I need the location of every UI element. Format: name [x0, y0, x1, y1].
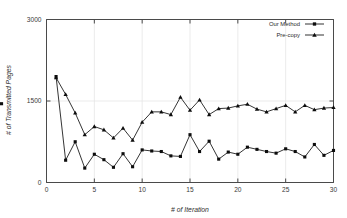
- data-point-marker: [0, 102, 3, 105]
- legend-label: Pre-copy: [276, 32, 300, 38]
- data-point-marker: [150, 149, 153, 152]
- data-point-marker: [93, 153, 96, 156]
- data-point-marker: [188, 133, 191, 136]
- data-point-marker: [294, 150, 297, 153]
- legend-marker-sample: [313, 22, 316, 25]
- data-point-marker: [198, 150, 201, 153]
- x-tick-label: 0: [45, 186, 49, 193]
- x-tick-label: 5: [92, 186, 96, 193]
- data-point-marker: [255, 148, 258, 151]
- data-point-marker: [313, 143, 316, 146]
- legend-label: Our Method: [269, 21, 300, 27]
- y-tick-label: 1500: [27, 97, 42, 104]
- x-tick-label: 20: [234, 186, 242, 193]
- chart-figure: 015003000 051015202530 # of Iteration # …: [0, 0, 347, 218]
- data-point-marker: [217, 158, 220, 161]
- data-point-marker: [160, 150, 163, 153]
- data-point-marker: [121, 152, 124, 155]
- data-point-marker: [322, 154, 325, 157]
- x-tick-label: 25: [282, 186, 290, 193]
- data-point-marker: [236, 153, 239, 156]
- data-point-marker: [112, 166, 115, 169]
- x-tick-label: 15: [186, 186, 194, 193]
- data-point-marker: [227, 151, 230, 154]
- data-point-marker: [303, 155, 306, 158]
- data-point-marker: [169, 154, 172, 157]
- data-point-marker: [74, 140, 77, 143]
- y-tick-label: 3000: [27, 16, 42, 23]
- data-point-marker: [131, 165, 134, 168]
- data-point-marker: [332, 149, 335, 152]
- data-point-marker: [265, 150, 268, 153]
- x-tick-label: 10: [138, 186, 146, 193]
- data-point-marker: [208, 140, 211, 143]
- data-point-marker: [179, 155, 182, 158]
- y-tick-label: 0: [38, 179, 42, 186]
- data-point-marker: [64, 159, 67, 162]
- data-point-marker: [141, 148, 144, 151]
- x-axis-title: # of Iteration: [171, 206, 209, 213]
- y-axis-title: # of Transmitted Pages: [5, 65, 13, 135]
- data-point-marker: [275, 152, 278, 155]
- data-point-marker: [102, 158, 105, 161]
- line-chart: 015003000 051015202530 # of Iteration # …: [0, 0, 347, 218]
- data-point-marker: [83, 167, 86, 170]
- data-point-marker: [246, 146, 249, 149]
- data-point-marker: [284, 147, 287, 150]
- x-tick-label: 30: [330, 186, 338, 193]
